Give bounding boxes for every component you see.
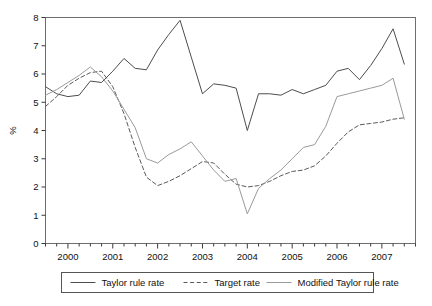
y-tick-label: 3 bbox=[33, 153, 38, 164]
x-tick-label: 2004 bbox=[237, 251, 258, 262]
x-tick-label: 2006 bbox=[326, 251, 347, 262]
legend-label-1: Target rate bbox=[215, 277, 260, 288]
x-tick-label: 2007 bbox=[371, 251, 392, 262]
chart-canvas: 012345678 200020012002200320042005200620… bbox=[0, 0, 432, 306]
y-tick-label: 0 bbox=[33, 238, 38, 249]
y-axis-title: % bbox=[7, 126, 18, 135]
y-tick-label: 5 bbox=[33, 97, 38, 108]
legend-label-2: Modified Taylor rule rate bbox=[298, 277, 399, 288]
plot-frame bbox=[46, 18, 416, 244]
chart-legend: Taylor rule rateTarget rateModified Tayl… bbox=[62, 273, 399, 293]
x-tick-label: 2001 bbox=[102, 251, 123, 262]
y-tick-label: 6 bbox=[33, 68, 38, 79]
y-axis-ticks bbox=[42, 18, 46, 244]
y-axis-label: % bbox=[7, 126, 18, 135]
plot-border bbox=[46, 18, 416, 244]
x-tick-label: 2003 bbox=[192, 251, 213, 262]
y-tick-labels: 012345678 bbox=[33, 12, 38, 249]
line-chart-svg: 012345678 200020012002200320042005200620… bbox=[0, 0, 432, 306]
y-tick-label: 7 bbox=[33, 40, 38, 51]
data-series-group bbox=[46, 20, 405, 214]
y-tick-label: 4 bbox=[33, 125, 38, 136]
legend-label-0: Taylor rule rate bbox=[102, 277, 165, 288]
x-tick-label: 2005 bbox=[282, 251, 303, 262]
y-tick-label: 2 bbox=[33, 181, 38, 192]
series-line-modified-taylor-rule-rate bbox=[46, 67, 405, 214]
x-axis-ticks bbox=[46, 244, 416, 249]
chart-figure: 012345678 200020012002200320042005200620… bbox=[0, 0, 432, 306]
x-tick-label: 2000 bbox=[57, 251, 78, 262]
y-tick-label: 8 bbox=[33, 12, 38, 23]
y-tick-label: 1 bbox=[33, 210, 38, 221]
x-tick-label: 2002 bbox=[147, 251, 168, 262]
series-line-target-rate bbox=[46, 71, 405, 187]
x-tick-labels: 20002001200220032004200520062007 bbox=[57, 251, 392, 262]
